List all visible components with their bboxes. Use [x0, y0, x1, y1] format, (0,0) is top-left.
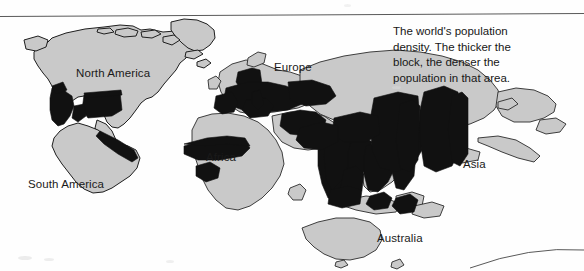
caption-line-3: block, the denser the	[393, 55, 553, 71]
density-block-se-islands	[366, 192, 392, 210]
population-density-figure: .land { fill:#c9c9c9; stroke:#1e1e1e; st…	[0, 0, 584, 271]
landmass-arctic-islands-5	[185, 50, 203, 59]
density-block-java	[328, 186, 362, 208]
top-rule	[0, 14, 584, 17]
scan-artifact-arc	[470, 249, 584, 268]
label-europe: Europe	[274, 61, 312, 73]
density-block-mexico	[72, 104, 86, 122]
scan-speck-2	[44, 258, 54, 261]
density-block-korea-japan	[448, 92, 468, 166]
landmass-japan-arc	[478, 136, 540, 162]
caption-line-1: The world's population	[393, 24, 553, 40]
label-north-america: North America	[76, 67, 150, 79]
label-south-america: South America	[28, 178, 104, 190]
landmass-madagascar	[288, 184, 306, 200]
label-australia: Australia	[377, 232, 423, 244]
scan-speck-4	[392, 86, 401, 89]
landmass-iceland	[197, 59, 211, 68]
landmass-australia	[302, 218, 382, 260]
label-asia: Asia	[463, 158, 486, 170]
scan-speck-1	[18, 256, 32, 260]
caption-line-4: population in that area.	[393, 71, 553, 87]
landmass-far-east-2	[536, 118, 566, 134]
density-block-china-coast	[396, 100, 420, 172]
density-block-central-asia	[332, 112, 380, 142]
caption-block: The world's population density. The thic…	[393, 24, 553, 86]
label-africa: Africa	[206, 151, 236, 163]
landmass-tasmania	[335, 260, 348, 268]
caption-line-2: density. The thicker the	[393, 40, 553, 56]
scan-speck-3	[166, 260, 174, 263]
landmass-new-zealand	[391, 259, 404, 269]
scan-speck-5	[344, 4, 351, 7]
